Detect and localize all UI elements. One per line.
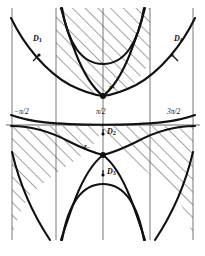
arrow-stem-D4 <box>172 55 178 61</box>
region-label-D1: D1 <box>33 35 42 44</box>
region-label-D3: D3 <box>107 168 116 177</box>
curve-flat-branch-left <box>11 115 103 125</box>
hatched-region-lower-left <box>12 126 104 240</box>
saddle-label-z-plus: z+ <box>109 84 115 92</box>
tick-label-3pi-over-2: 3π/2 <box>167 108 180 116</box>
region-label-D2-index: 2 <box>113 129 116 136</box>
curve-z-minus-lower-left-arm <box>61 155 103 240</box>
curve-flat-branch-right <box>103 115 195 125</box>
region-label-D4: D4 <box>174 35 183 44</box>
hatched-region-lower-right <box>103 126 194 240</box>
saddle-label-z-plus-subscript: + <box>112 85 115 91</box>
tick-label-pi-over-2: π/2 <box>96 108 106 116</box>
contour-figure: −π/2 π/2 3π/2 z+ z− D1 D4 D2 D3 <box>0 0 205 256</box>
region-label-D3-index: 3 <box>113 169 116 176</box>
saddle-label-z-minus: z− <box>84 143 90 151</box>
saddle-point-z-plus-marker <box>100 93 106 99</box>
region-label-D4-index: 4 <box>180 36 183 43</box>
saddle-label-z-minus-subscript: − <box>87 144 90 150</box>
region-label-D1-index: 1 <box>39 36 42 43</box>
saddle-point-z-minus-marker <box>100 152 106 158</box>
tick-label-minus-pi-over-2: −π/2 <box>14 108 29 116</box>
region-label-D2: D2 <box>107 128 116 137</box>
